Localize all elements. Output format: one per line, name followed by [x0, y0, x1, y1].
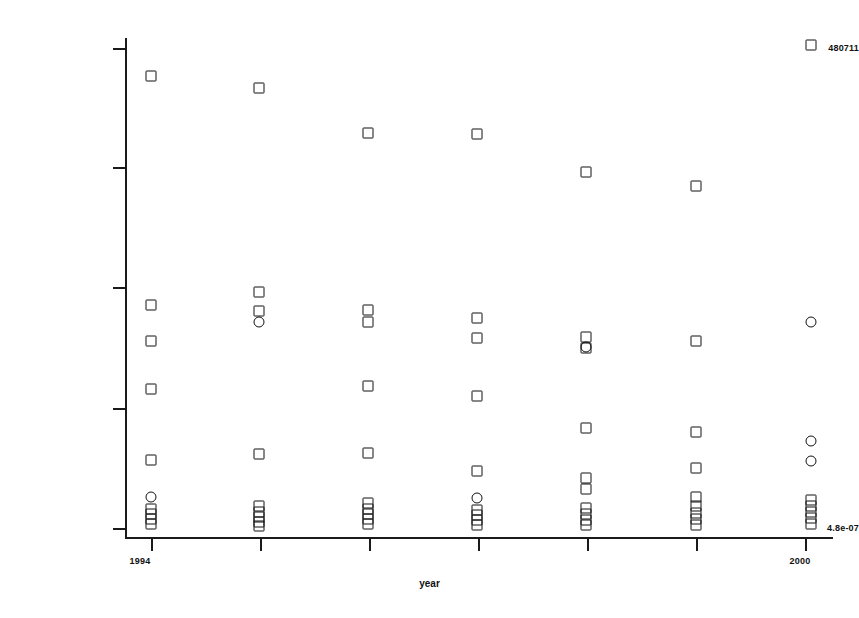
plot-area: [0, 0, 859, 618]
data-point-square: [363, 381, 374, 392]
data-point-square: [472, 520, 483, 531]
data-point-square: [691, 427, 702, 438]
data-point-square: [254, 287, 265, 298]
data-point-square: [691, 520, 702, 531]
data-point-circle: [806, 456, 817, 467]
data-point-circle: [581, 342, 592, 353]
data-point-circle: [146, 492, 157, 503]
data-point-square: [472, 333, 483, 344]
data-point-square: [691, 336, 702, 347]
data-point-square: [146, 300, 157, 311]
data-point-square: [806, 519, 817, 530]
data-point-square: [581, 167, 592, 178]
data-point-square: [363, 128, 374, 139]
data-point-square: [363, 317, 374, 328]
data-point-square: [581, 423, 592, 434]
data-point-square: [146, 336, 157, 347]
data-point-square: [363, 305, 374, 316]
data-point-square: [691, 463, 702, 474]
data-point-square: [581, 484, 592, 495]
data-point-circle: [472, 493, 483, 504]
data-point-circle: [806, 317, 817, 328]
data-point-square: [146, 455, 157, 466]
data-point-circle: [806, 436, 817, 447]
data-point-square: [254, 306, 265, 317]
data-point-square: [472, 391, 483, 402]
data-point-circle: [254, 317, 265, 328]
data-point-square: [146, 384, 157, 395]
data-point-square: [363, 448, 374, 459]
data-point-square: [146, 71, 157, 82]
data-point-square: [254, 83, 265, 94]
data-point-square: [472, 129, 483, 140]
data-point-square: [363, 519, 374, 530]
data-point-square: [254, 449, 265, 460]
data-point-square: [146, 519, 157, 530]
data-point-square: [581, 520, 592, 531]
data-point-square: [254, 521, 265, 532]
data-point-square: [472, 313, 483, 324]
data-point-square: [581, 473, 592, 484]
scatter-plot-figure: 480711 4.8e-07 1994 2000 year: [0, 0, 859, 618]
data-point-square: [691, 181, 702, 192]
data-point-square: [806, 40, 817, 51]
data-point-square: [472, 466, 483, 477]
